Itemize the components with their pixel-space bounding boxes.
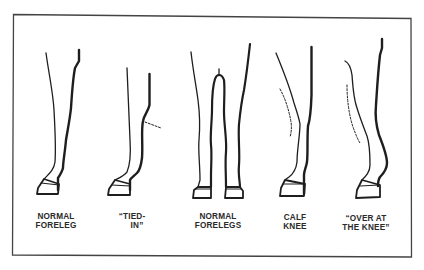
right-leg-outer xyxy=(239,44,250,187)
front-outline xyxy=(44,53,55,179)
label-line: IN” xyxy=(119,222,146,231)
label-line: KNEE xyxy=(283,223,307,232)
horse-foreleg-conformation-diagram: NORMAL FORELEG “TIED- IN” NORMAL FORELEG… xyxy=(0,0,424,270)
hoof xyxy=(108,180,130,195)
hoof xyxy=(37,179,59,194)
label-tied-in: “TIED- IN” xyxy=(119,213,146,230)
front-outline xyxy=(276,53,300,180)
over-at-the-knee-drawing xyxy=(345,39,387,198)
back-outline xyxy=(304,47,312,194)
label-normal-forelegs: NORMAL FORELEGS xyxy=(195,213,242,230)
inner-arch xyxy=(211,75,226,187)
back-outline xyxy=(130,74,150,190)
label-line: FORELEGS xyxy=(195,222,242,231)
coronet-line xyxy=(360,185,379,186)
coronet-line xyxy=(112,185,130,186)
calf-knee-drawing xyxy=(276,47,312,196)
back-outline xyxy=(58,50,79,190)
back-outline xyxy=(376,39,387,186)
label-over-at-the-knee: “OVER AT THE KNEE” xyxy=(342,215,389,232)
normal-forelegs-drawing xyxy=(191,44,250,198)
left-leg-outer xyxy=(191,52,200,187)
tied-in-drawing xyxy=(108,68,161,195)
label-line: FORELEG xyxy=(36,222,77,231)
calf-knee-indicator-dashed xyxy=(280,89,291,137)
label-calf-knee: CALF KNEE xyxy=(283,214,307,231)
tied-in-indicator-dashed xyxy=(145,122,161,128)
normal-foreleg-drawing xyxy=(37,50,79,194)
hoof xyxy=(280,180,305,196)
hoof xyxy=(356,180,380,198)
label-normal-foreleg: NORMAL FORELEG xyxy=(36,213,77,230)
front-outline xyxy=(115,68,130,180)
label-line: THE KNEE” xyxy=(342,224,389,233)
front-outline xyxy=(345,61,370,180)
